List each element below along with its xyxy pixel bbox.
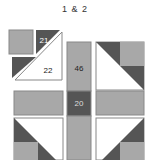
center-bar-bottom [67, 116, 91, 160]
label-46: 46 [67, 64, 91, 73]
label-22: 22 [40, 66, 56, 75]
bottom-right-square [120, 142, 144, 160]
label-21: 21 [36, 36, 52, 45]
top-left-square [9, 30, 33, 54]
bottom-left-square [14, 142, 38, 160]
right-top-square [120, 42, 144, 66]
right-middle-bar [96, 91, 144, 115]
quilt-block-diagram [0, 0, 150, 160]
left-middle-bar [14, 91, 63, 115]
label-20: 20 [67, 99, 91, 108]
